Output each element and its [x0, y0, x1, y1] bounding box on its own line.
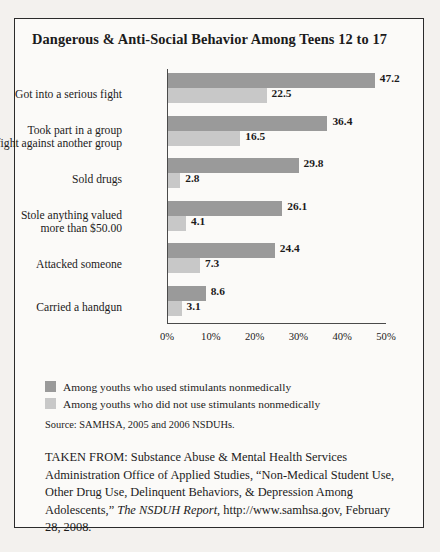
bar-not-used-stimulants: [168, 88, 267, 103]
bar-chart: 47.222.5Got into a serious fight36.416.5…: [15, 63, 421, 363]
legend-swatch: [45, 398, 56, 409]
bar-row: 4.1: [167, 216, 386, 231]
bar-row: 24.4: [167, 243, 386, 258]
bar-used-stimulants: [168, 286, 206, 301]
bar-value-label: 4.1: [191, 215, 205, 227]
bar-value-label: 8.6: [211, 285, 225, 297]
category-label: Sold drugs: [0, 173, 122, 187]
x-tick-label: 30%: [289, 331, 308, 342]
bar-value-label: 3.1: [187, 300, 201, 312]
bar-value-label: 24.4: [280, 242, 300, 254]
bar-row: 8.6: [167, 286, 386, 301]
bar-not-used-stimulants: [168, 258, 200, 273]
legend-label: Among youths who used stimulants nonmedi…: [63, 381, 291, 393]
category-label: Took part in a group fight against anoth…: [0, 124, 122, 151]
category-label: Stole anything valued more than $50.00: [0, 209, 122, 236]
bar-used-stimulants: [168, 201, 282, 216]
bar-value-label: 29.8: [304, 157, 324, 169]
bar-value-label: 36.4: [332, 115, 352, 127]
x-tick-label: 50%: [376, 331, 395, 342]
x-tick-label: 40%: [332, 331, 351, 342]
figure-frame: Dangerous & Anti-Social Behavior Among T…: [14, 18, 424, 528]
x-tick-label: 10%: [201, 331, 220, 342]
bar-row: 36.4: [167, 116, 386, 131]
legend-label: Among youths who did not use stimulants …: [63, 398, 320, 410]
attribution-italic-title: The NSDUH Report: [117, 503, 217, 517]
source-note: Source: SAMHSA, 2005 and 2006 NSDUHs.: [45, 419, 235, 430]
x-tick-label: 20%: [245, 331, 264, 342]
bar-not-used-stimulants: [168, 301, 182, 316]
bar-value-label: 26.1: [287, 200, 307, 212]
x-axis-ticks: 0%10%20%30%40%50%: [167, 331, 386, 349]
bar-used-stimulants: [168, 116, 327, 131]
bar-not-used-stimulants: [168, 216, 186, 231]
bar-value-label: 47.2: [380, 72, 400, 84]
bar-row: 26.1: [167, 201, 386, 216]
bar-not-used-stimulants: [168, 131, 240, 146]
legend-item: Among youths who did not use stimulants …: [45, 396, 320, 411]
category-label: Got into a serious fight: [0, 88, 122, 102]
x-tick-label: 0%: [160, 331, 174, 342]
bar-row: 16.5: [167, 131, 386, 146]
legend-item: Among youths who used stimulants nonmedi…: [45, 379, 320, 394]
legend-swatch: [45, 381, 56, 392]
bar-value-label: 2.8: [185, 172, 199, 184]
bar-row: 29.8: [167, 158, 386, 173]
bar-value-label: 22.5: [272, 87, 292, 99]
figure-page: Dangerous & Anti-Social Behavior Among T…: [0, 0, 440, 552]
bar-used-stimulants: [168, 158, 299, 173]
bar-group: 36.416.5Took part in a group fight again…: [167, 116, 386, 146]
bar-group: 47.222.5Got into a serious fight: [167, 73, 386, 103]
bar-row: 7.3: [167, 258, 386, 273]
bar-value-label: 16.5: [245, 130, 265, 142]
bar-row: 3.1: [167, 301, 386, 316]
x-axis-line: [167, 323, 386, 324]
bar-row: 22.5: [167, 88, 386, 103]
bar-row: 2.8: [167, 173, 386, 188]
chart-legend: Among youths who used stimulants nonmedi…: [45, 379, 320, 413]
bar-used-stimulants: [168, 73, 375, 88]
bar-group: 24.47.3Attacked someone: [167, 243, 386, 273]
attribution-note: TAKEN FROM: Substance Abuse & Mental Hea…: [45, 449, 397, 537]
category-label: Attacked someone: [0, 258, 122, 272]
category-label: Carried a handgun: [0, 301, 122, 315]
bar-value-label: 7.3: [205, 257, 219, 269]
bar-used-stimulants: [168, 243, 275, 258]
bar-group: 8.63.1Carried a handgun: [167, 286, 386, 316]
bar-group: 26.14.1Stole anything valued more than $…: [167, 201, 386, 231]
plot-area: 47.222.5Got into a serious fight36.416.5…: [167, 69, 386, 324]
bar-not-used-stimulants: [168, 173, 180, 188]
page-title: Dangerous & Anti-Social Behavior Among T…: [32, 31, 387, 48]
bar-group: 29.82.8Sold drugs: [167, 158, 386, 188]
bar-row: 47.2: [167, 73, 386, 88]
